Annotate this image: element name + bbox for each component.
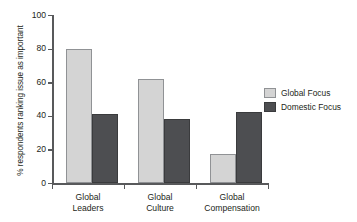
x-category-label-global-culture: Global Culture <box>124 192 196 213</box>
legend-label: Domestic Focus <box>281 102 341 112</box>
plot-area: 0 20 40 60 80 100 <box>52 15 268 183</box>
x-category-line-1: Global <box>76 192 101 202</box>
y-tick-label: 80 <box>36 43 46 54</box>
bar-global-culture-domestic-focus <box>164 119 190 183</box>
x-axis-line <box>52 183 269 185</box>
legend-item-domestic-focus: Domestic Focus <box>264 100 341 114</box>
x-tick-mark <box>196 183 197 189</box>
y-tick-label: 60 <box>36 77 46 88</box>
x-category-line-2: Leaders <box>52 203 124 214</box>
bar-global-culture-global-focus <box>138 79 164 183</box>
y-tick-label: 20 <box>36 144 46 155</box>
legend-item-global-focus: Global Focus <box>264 86 341 100</box>
bar-global-leaders-global-focus <box>66 49 92 183</box>
y-axis-line <box>52 15 54 184</box>
y-tick-mark <box>48 116 53 117</box>
x-category-label-global-compensation: Global Compensation <box>196 192 268 213</box>
x-category-line-1: Global <box>220 192 245 202</box>
y-tick-label: 0 <box>41 178 46 189</box>
x-tick-mark <box>52 183 53 189</box>
bar-global-leaders-domestic-focus <box>92 114 118 183</box>
legend-swatch-icon <box>264 102 276 112</box>
x-tick-mark <box>124 183 125 189</box>
bar-global-compensation-global-focus <box>210 154 236 183</box>
y-tick-label: 40 <box>36 110 46 121</box>
x-category-line-2: Culture <box>124 203 196 214</box>
y-tick-label: 100 <box>32 10 46 21</box>
bar-chart-figure: % respondents ranking issue as important… <box>0 0 357 222</box>
y-tick-mark <box>48 15 53 16</box>
y-tick-mark <box>48 82 53 83</box>
y-tick-mark <box>48 149 53 150</box>
legend-label: Global Focus <box>281 88 330 98</box>
chart-legend: Global Focus Domestic Focus <box>264 86 341 114</box>
bar-global-compensation-domestic-focus <box>236 112 262 183</box>
legend-swatch-icon <box>264 88 276 98</box>
y-tick-mark <box>48 49 53 50</box>
x-tick-mark <box>268 183 269 189</box>
x-category-label-global-leaders: Global Leaders <box>52 192 124 213</box>
x-category-line-2: Compensation <box>196 203 268 214</box>
x-category-line-1: Global <box>148 192 173 202</box>
y-axis-title: % respondents ranking issue as important <box>16 13 25 189</box>
